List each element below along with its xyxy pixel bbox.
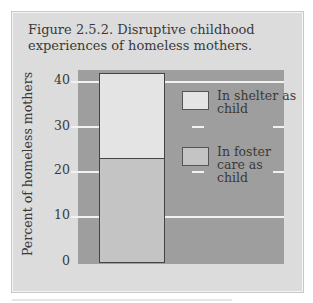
bar-segment-shelter xyxy=(99,73,165,159)
figure-title: Figure 2.5.2. Disruptive childhood exper… xyxy=(28,22,288,54)
legend-swatch-foster-care xyxy=(182,147,209,166)
gridline-30-left xyxy=(71,126,101,128)
divider xyxy=(12,299,232,301)
gridline-20-mid xyxy=(192,171,204,173)
legend-label-shelter: In shelter as child xyxy=(217,89,297,115)
y-tick-10: 10 xyxy=(48,207,70,222)
legend-swatch-shelter xyxy=(182,91,209,110)
y-tick-20: 20 xyxy=(48,162,70,177)
y-tick-0: 0 xyxy=(48,253,70,268)
bar-segment-foster-care xyxy=(99,158,165,263)
gridline-30-mid xyxy=(192,126,204,128)
y-axis-label: Percent of homeless mothers xyxy=(20,76,36,256)
y-tick-30: 30 xyxy=(48,118,70,133)
legend-label-foster-care: In foster care as child xyxy=(217,145,277,184)
y-tick-40: 40 xyxy=(48,72,70,87)
gridline-30-right xyxy=(273,126,284,128)
gridline-20-left xyxy=(71,171,101,173)
